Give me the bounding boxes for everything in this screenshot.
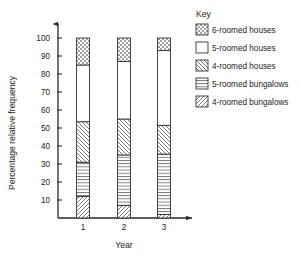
y-tick-label-20: 20 xyxy=(41,178,51,187)
legend-item-5-roomed-houses[interactable]: 5-roomed houses xyxy=(196,42,276,53)
bar-3-segment-5-roomed-bungalows[interactable] xyxy=(158,154,171,214)
x-tick-label-1: 1 xyxy=(81,223,86,232)
y-axis-tick-labels: 100 90 80 70 60 50 40 30 20 10 xyxy=(36,34,50,205)
y-axis-title: Percentage relative frequency xyxy=(7,75,17,190)
legend-item-6-roomed-houses[interactable]: 6-roomed houses xyxy=(196,24,276,35)
y-tick-label-40: 40 xyxy=(41,142,51,151)
legend-swatch-dotted xyxy=(196,24,208,35)
legend-label-4-roomed-houses: 4-roomed houses xyxy=(212,62,276,71)
bar-2-segment-5-roomed-houses[interactable] xyxy=(118,61,131,119)
bar-2-segment-4-roomed-bungalows[interactable] xyxy=(118,205,131,218)
y-tick-label-60: 60 xyxy=(41,106,51,115)
legend-label-5-roomed-bungalows: 5-roomed bungalows xyxy=(212,80,288,89)
y-tick-label-80: 80 xyxy=(41,70,51,79)
legend-swatch-diag-up xyxy=(196,96,208,107)
legend-swatch-blank xyxy=(196,42,208,53)
legend: Key 6-roomed houses 5-roomed houses 4-ro… xyxy=(196,9,288,107)
legend-item-4-roomed-bungalows[interactable]: 4-roomed bungalows xyxy=(196,96,288,107)
legend-swatch-diag-down xyxy=(196,60,208,71)
stacked-bar-chart-figure: Percentage relative frequency 100 90 80 … xyxy=(0,0,300,264)
bar-1-segment-5-roomed-houses[interactable] xyxy=(77,65,90,122)
legend-label-4-roomed-bungalows: 4-roomed bungalows xyxy=(212,98,288,107)
bar-3-segment-4-roomed-bungalows[interactable] xyxy=(158,214,171,218)
bar-1-segment-6-roomed-houses[interactable] xyxy=(77,38,90,65)
bar-3-segment-5-roomed-houses[interactable] xyxy=(158,51,171,126)
bar-2-segment-6-roomed-houses[interactable] xyxy=(118,38,131,61)
y-tick-label-10: 10 xyxy=(41,196,51,205)
bar-group-year-3[interactable] xyxy=(158,38,171,218)
legend-item-4-roomed-houses[interactable]: 4-roomed houses xyxy=(196,60,276,71)
x-tick-label-3: 3 xyxy=(162,223,167,232)
y-tick-label-30: 30 xyxy=(41,160,51,169)
bar-1-segment-4-roomed-bungalows[interactable] xyxy=(77,196,90,218)
legend-title: Key xyxy=(196,9,212,19)
bar-2-segment-4-roomed-houses[interactable] xyxy=(118,119,131,155)
legend-swatch-horizontal-lines xyxy=(196,78,208,89)
y-tick-label-50: 50 xyxy=(41,124,51,133)
bar-1-segment-5-roomed-bungalows[interactable] xyxy=(77,162,90,196)
bar-group-year-1[interactable] xyxy=(77,38,90,218)
y-tick-label-90: 90 xyxy=(41,52,51,61)
bar-group-year-2[interactable] xyxy=(118,38,131,218)
bar-3-segment-4-roomed-houses[interactable] xyxy=(158,125,171,154)
chart-canvas: Percentage relative frequency 100 90 80 … xyxy=(0,0,300,264)
y-axis-title-group: Percentage relative frequency xyxy=(7,75,17,190)
x-axis-title: Year xyxy=(115,240,133,250)
y-tick-label-70: 70 xyxy=(41,88,51,97)
x-tick-label-2: 2 xyxy=(122,223,127,232)
legend-label-6-roomed-houses: 6-roomed houses xyxy=(212,26,276,35)
legend-label-5-roomed-houses: 5-roomed houses xyxy=(212,44,276,53)
legend-item-5-roomed-bungalows[interactable]: 5-roomed bungalows xyxy=(196,78,288,89)
x-axis-tick-labels: 1 2 3 xyxy=(81,223,167,232)
bar-1-segment-4-roomed-houses[interactable] xyxy=(77,122,90,163)
bar-3-segment-6-roomed-houses[interactable] xyxy=(158,38,171,51)
y-tick-label-100: 100 xyxy=(36,34,50,43)
bar-2-segment-5-roomed-bungalows[interactable] xyxy=(118,155,131,205)
